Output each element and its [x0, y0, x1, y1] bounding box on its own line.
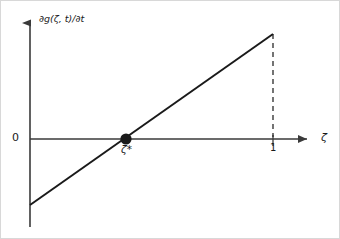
- y-axis-label: ∂g(ζ, t)/∂t: [39, 14, 84, 24]
- figure-container: ∂g(ζ, t)/∂t ζ 0 1 ζ*: [0, 0, 340, 239]
- x-tick-one-label: 1: [270, 143, 276, 153]
- origin-tick-label: 0: [12, 132, 19, 143]
- x-axis-label: ζ: [321, 132, 327, 143]
- data-line-series: [30, 34, 273, 205]
- plot-canvas: [1, 1, 340, 239]
- zero-crossing-label: ζ*: [121, 144, 132, 155]
